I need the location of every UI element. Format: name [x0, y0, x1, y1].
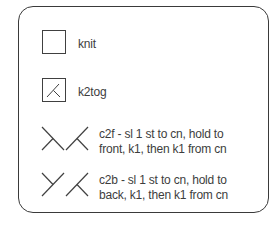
c2f-label-line2: front, k1, then k1 from cn: [99, 142, 227, 156]
cable-back-symbol-icon: [40, 171, 92, 199]
k2tog-label: k2tog: [78, 85, 106, 99]
k2tog-symbol-icon: [41, 77, 67, 103]
c2b-label-line2: back, k1, then k1 from cn: [99, 188, 228, 202]
knit-symbol-icon: [41, 29, 67, 55]
knit-label: knit: [78, 37, 96, 51]
c2b-label-line1: c2b - sl 1 st to cn, hold to: [99, 173, 227, 187]
c2f-label-line1: c2f - sl 1 st to cn, hold to: [99, 127, 223, 141]
cable-front-symbol-icon: [40, 125, 92, 153]
